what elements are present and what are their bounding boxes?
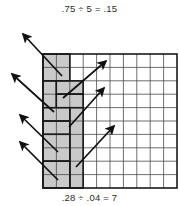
division-grid-figure: .75 ÷ 5 = .15 .28 ÷ .04 = 7: [0, 0, 179, 206]
bottom-equation-label: .28 ÷ .04 = 7: [0, 192, 179, 203]
grid-diagram-svg: [0, 0, 179, 206]
